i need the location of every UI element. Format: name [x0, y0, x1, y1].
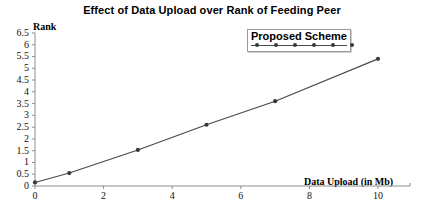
x-axis-tick-label: 8: [299, 190, 319, 201]
x-axis-tick-label: 6: [231, 190, 251, 201]
legend: Proposed Scheme: [247, 29, 351, 52]
y-axis-tick-label: 6: [5, 39, 29, 50]
legend-marker-dot: [331, 43, 335, 47]
y-axis-tick-label: 6.5: [5, 27, 29, 38]
plot-area: [0, 0, 424, 220]
legend-marker-dot: [255, 43, 259, 47]
chart-container: Effect of Data Upload over Rank of Feedi…: [0, 0, 424, 220]
legend-marker-dot: [274, 43, 278, 47]
data-point-marker: [376, 57, 380, 61]
y-axis-tick-label: 5: [5, 62, 29, 73]
legend-marker-dot: [312, 43, 316, 47]
legend-marker-dot: [293, 43, 297, 47]
y-axis-tick-label: 4: [5, 86, 29, 97]
y-axis-tick-label: 3.5: [5, 98, 29, 109]
data-point-marker: [136, 148, 140, 152]
x-axis-tick-label: 2: [94, 190, 114, 201]
x-axis-tick-label: 0: [25, 190, 45, 201]
y-axis-tick-label: 3: [5, 109, 29, 120]
data-point-marker: [33, 180, 37, 184]
legend-entry-label: Proposed Scheme: [251, 30, 347, 42]
data-point-marker: [273, 99, 277, 103]
y-axis-tick-label: 2.5: [5, 121, 29, 132]
data-line-proposed-scheme: [35, 59, 378, 183]
x-axis-tick-label: 4: [162, 190, 182, 201]
y-axis-tick-label: 1.5: [5, 145, 29, 156]
x-axis-tick-label: 10: [368, 190, 388, 201]
data-point-marker: [67, 171, 71, 175]
y-axis-tick-label: 5.5: [5, 50, 29, 61]
y-axis-tick-label: 2: [5, 133, 29, 144]
y-axis-tick-label: 4.5: [5, 74, 29, 85]
y-axis-tick-label: 0.5: [5, 168, 29, 179]
data-point-marker: [204, 123, 208, 127]
y-axis-tick-label: 1: [5, 156, 29, 167]
legend-marker-dot: [350, 43, 354, 47]
legend-series-swatch: [251, 43, 347, 49]
